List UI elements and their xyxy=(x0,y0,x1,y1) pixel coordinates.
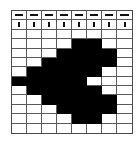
grid-cell-filled[interactable] xyxy=(57,105,72,114)
grid-cell-filled[interactable] xyxy=(27,67,42,76)
grid-cell-filled[interactable] xyxy=(72,67,87,76)
grid-cell-filled[interactable] xyxy=(57,95,72,104)
column-hint-dash-icon xyxy=(42,11,57,20)
column-hint-dash-icon xyxy=(27,11,42,20)
grid-cell-empty[interactable] xyxy=(12,30,27,39)
grid-cell-empty[interactable] xyxy=(102,114,117,123)
column-hint-bar-icon xyxy=(57,20,72,29)
grid-cell-empty[interactable] xyxy=(27,49,42,58)
grid-cell-empty[interactable] xyxy=(117,124,132,133)
column-hint-dash-icon xyxy=(12,11,27,20)
column-hint-dash-icon xyxy=(87,11,102,20)
grid-cell-filled[interactable] xyxy=(87,39,102,48)
grid-cell-empty[interactable] xyxy=(57,30,72,39)
grid-cell-empty[interactable] xyxy=(102,30,117,39)
grid-cell-empty[interactable] xyxy=(102,67,117,76)
grid-cell-filled[interactable] xyxy=(102,58,117,67)
grid-cell-empty[interactable] xyxy=(57,39,72,48)
grid-cell-filled[interactable] xyxy=(102,95,117,104)
grid-cell-filled[interactable] xyxy=(87,105,102,114)
grid-cell-filled[interactable] xyxy=(102,49,117,58)
grid-cell-empty[interactable] xyxy=(42,105,57,114)
grid-cell-filled[interactable] xyxy=(57,49,72,58)
column-hint-dash-icon xyxy=(57,11,72,20)
grid-cell-empty[interactable] xyxy=(72,30,87,39)
grid-cell-empty[interactable] xyxy=(72,124,87,133)
grid-cell-empty[interactable] xyxy=(102,77,117,86)
grid-cell-empty[interactable] xyxy=(42,39,57,48)
grid-cell-empty[interactable] xyxy=(102,124,117,133)
grid-cell-empty[interactable] xyxy=(87,77,102,86)
grid-cell-empty[interactable] xyxy=(12,105,27,114)
puzzle-board xyxy=(11,10,133,134)
grid-cell-filled[interactable] xyxy=(27,77,42,86)
column-hint-dash-icon xyxy=(72,11,87,20)
grid-cell-empty[interactable] xyxy=(42,124,57,133)
grid-cell-empty[interactable] xyxy=(117,49,132,58)
grid-cell-empty[interactable] xyxy=(12,95,27,104)
grid-cell-empty[interactable] xyxy=(27,105,42,114)
grid-cell-filled[interactable] xyxy=(57,67,72,76)
grid-cell-filled[interactable] xyxy=(72,105,87,114)
grid-cell-empty[interactable] xyxy=(117,105,132,114)
grid-cell-filled[interactable] xyxy=(72,58,87,67)
grid-cell-empty[interactable] xyxy=(27,30,42,39)
grid-cell-filled[interactable] xyxy=(27,86,42,95)
grid-cell-filled[interactable] xyxy=(87,95,102,104)
grid-cell-filled[interactable] xyxy=(42,86,57,95)
grid-cell-empty[interactable] xyxy=(57,114,72,123)
grid-cell-empty[interactable] xyxy=(12,114,27,123)
grid-cell-empty[interactable] xyxy=(12,39,27,48)
grid-cell-empty[interactable] xyxy=(117,58,132,67)
grid-cell-filled[interactable] xyxy=(42,77,57,86)
grid-cell-empty[interactable] xyxy=(117,67,132,76)
column-hint-dash-icon xyxy=(117,11,132,20)
grid-cell-filled[interactable] xyxy=(102,105,117,114)
grid-cell-empty[interactable] xyxy=(117,95,132,104)
grid-cell-filled[interactable] xyxy=(72,114,87,123)
grid-cell-filled[interactable] xyxy=(87,114,102,123)
grid-cell-empty[interactable] xyxy=(12,58,27,67)
grid-cell-empty[interactable] xyxy=(117,114,132,123)
grid-cell-filled[interactable] xyxy=(57,86,72,95)
grid-cell-filled[interactable] xyxy=(42,58,57,67)
grid-cell-filled[interactable] xyxy=(87,86,102,95)
grid-cell-empty[interactable] xyxy=(27,39,42,48)
grid-cell-filled[interactable] xyxy=(87,49,102,58)
grid-cell-filled[interactable] xyxy=(72,95,87,104)
grid-cell-empty[interactable] xyxy=(102,86,117,95)
grid-cell-filled[interactable] xyxy=(87,58,102,67)
grid-cell-empty[interactable] xyxy=(12,49,27,58)
grid-cell-empty[interactable] xyxy=(27,114,42,123)
grid-cell-empty[interactable] xyxy=(42,49,57,58)
grid-cell-empty[interactable] xyxy=(12,124,27,133)
column-hint-dash-icon xyxy=(102,11,117,20)
grid-cell-filled[interactable] xyxy=(57,77,72,86)
grid-cell-empty[interactable] xyxy=(117,30,132,39)
grid-cell-empty[interactable] xyxy=(12,67,27,76)
grid-cell-filled[interactable] xyxy=(57,58,72,67)
grid-cell-filled[interactable] xyxy=(87,67,102,76)
grid-cell-filled[interactable] xyxy=(72,39,87,48)
grid-cell-empty[interactable] xyxy=(27,95,42,104)
grid-cell-empty[interactable] xyxy=(27,58,42,67)
grid-cell-empty[interactable] xyxy=(27,124,42,133)
grid-cell-empty[interactable] xyxy=(57,124,72,133)
grid-cell-empty[interactable] xyxy=(12,86,27,95)
grid-cell-filled[interactable] xyxy=(72,86,87,95)
grid-cell-filled[interactable] xyxy=(42,95,57,104)
grid-cell-filled[interactable] xyxy=(42,67,57,76)
column-hint-bar-icon xyxy=(102,20,117,29)
grid-cell-empty[interactable] xyxy=(42,30,57,39)
column-hint-bar-icon xyxy=(42,20,57,29)
grid-cell-empty[interactable] xyxy=(117,77,132,86)
grid-cell-filled[interactable] xyxy=(72,77,87,86)
grid-cell-empty[interactable] xyxy=(117,86,132,95)
grid-cell-filled[interactable] xyxy=(12,77,27,86)
grid-cell-filled[interactable] xyxy=(72,49,87,58)
grid-cell-empty[interactable] xyxy=(102,39,117,48)
grid-cell-empty[interactable] xyxy=(117,39,132,48)
grid-cell-empty[interactable] xyxy=(87,30,102,39)
grid-cell-empty[interactable] xyxy=(42,114,57,123)
grid-cell-empty[interactable] xyxy=(87,124,102,133)
